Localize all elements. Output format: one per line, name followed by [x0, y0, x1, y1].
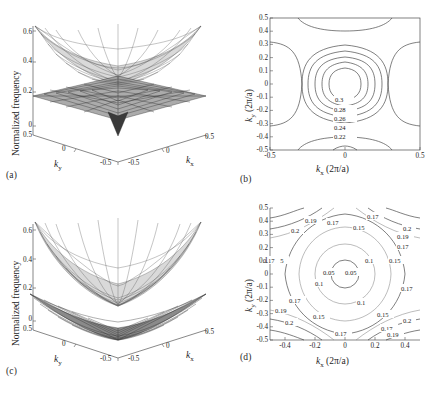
panel-b-clabel-026: 0.26 — [334, 115, 346, 122]
panel-d-ytick-0: 0.5 — [242, 204, 268, 212]
panel-b-ytick-5: 0 — [242, 80, 268, 88]
panel-d-ytick-9: -0.4 — [242, 323, 268, 331]
panel-a-ytick-2: -0.5 — [100, 159, 111, 167]
panel-a-xtick-2: 0.5 — [205, 133, 214, 141]
panel-d-clabel-017-right-upper: 0.17 — [397, 243, 409, 250]
panel-a-lower-band-surface — [33, 76, 206, 120]
panel-a-surface-plot: Normalized frequency 0.6 0.4 0.2 0 0.5 — [0, 4, 240, 194]
panel-d-y-ticks — [270, 208, 273, 340]
panel-a-ztick-3: 0 — [8, 121, 32, 129]
panel-b-y-ticks — [270, 18, 273, 150]
panel-b-xaxis-subscript: x — [320, 169, 324, 177]
panel-d-clabel-015-top: 0.15 — [353, 224, 365, 231]
panel-d-ytick-3: 0.2 — [242, 244, 268, 252]
panel-c-xaxis-subscript: x — [190, 355, 194, 363]
panel-d-xtick-0: -0.4 — [273, 342, 297, 350]
panel-a-xtick-0: -0.5 — [128, 159, 139, 167]
panel-d-xtick-2: 0 — [333, 342, 357, 350]
panel-c-canvas — [0, 194, 240, 393]
panel-b-contour-labels: 0.3 0.28 0.26 0.24 0.22 — [333, 95, 357, 140]
panel-b-ytick-6: -0.1 — [242, 93, 268, 101]
panel-c-xtick-1: 0 — [166, 342, 170, 350]
panel-d-ytick-6: -0.1 — [242, 283, 268, 291]
panel-d-clabel-02-top-left: 0.2 — [291, 227, 299, 234]
panel-a-ztick-1: 0.4 — [8, 57, 32, 65]
panel-a-xaxis-label: kx — [186, 155, 194, 168]
panel-c-ytick-1: 0 — [62, 340, 66, 348]
panel-d-xaxis-subscript: x — [320, 361, 324, 369]
panel-b-clabel-028: 0.28 — [334, 106, 346, 113]
panel-d-clabel-01-left: 0.1 — [315, 280, 323, 287]
panel-b-xtick-0: -0.5 — [258, 152, 282, 160]
panel-d-xaxis-label: kx (2π/a) — [316, 356, 349, 369]
panel-a-ztick-2: 0.2 — [8, 87, 32, 95]
panel-a-canvas — [0, 4, 240, 194]
panel-d-clabel-01-upper-right: 0.1 — [365, 257, 373, 264]
panel-d-ytick-5: 0 — [242, 270, 268, 278]
panel-d-clabel-015-right: 0.15 — [389, 257, 401, 264]
panel-b-clabel-03: 0.3 — [335, 96, 344, 103]
panel-c-yaxis-subscript: y — [58, 359, 62, 367]
panel-b-clabel-022: 0.22 — [334, 133, 346, 140]
panel-b-ytick-9: -0.4 — [242, 133, 268, 141]
panel-b-xtick-2: 0.5 — [408, 152, 432, 160]
panel-b-ytick-2: 0.3 — [242, 40, 268, 48]
panel-c-ytick-0: 0.5 — [4, 325, 32, 333]
panel-c-yaxis-label: ky — [54, 354, 62, 367]
panel-c-xtick-0: -0.5 — [128, 355, 139, 363]
panel-b-ytick-4: 0.1 — [242, 67, 268, 75]
panel-d-clabel-015-bottom-right: 0.15 — [377, 311, 389, 318]
panel-a-xtick-1: 0 — [166, 147, 170, 155]
panel-tag-d: (d) — [240, 352, 252, 362]
panel-d-xtick-4: 0.4 — [393, 342, 417, 350]
panel-b-ytick-3: 0.2 — [242, 54, 268, 62]
panel-a-zaxis-label: Normalized frequency — [11, 71, 21, 156]
panel-a-yaxis-subscript: y — [58, 164, 62, 172]
panel-d-clabel-019-top-right: 0.19 — [397, 233, 409, 240]
panel-b-clabel-024: 0.24 — [334, 124, 346, 131]
panel-b-xaxis-label: kx (2π/a) — [316, 164, 349, 177]
panel-b-contour-022 — [270, 42, 420, 126]
panel-tag-c: (c) — [6, 366, 17, 376]
panel-d-clabel-019-bottom-left: 0.19 — [275, 307, 287, 314]
panel-b-xtick-1: 0 — [333, 152, 357, 160]
panel-c-ztick-3: 0 — [8, 315, 32, 323]
panel-b-ytick-7: -0.2 — [242, 106, 268, 114]
panel-d-clabel-005-left: 0.05 — [323, 269, 335, 276]
panel-d-ytick-7: -0.2 — [242, 296, 268, 304]
panel-d-xtick-1: -0.2 — [303, 342, 327, 350]
panel-d-xaxis-unit: (2π/a) — [326, 356, 349, 366]
panel-c-upper-band-surface — [35, 218, 201, 306]
panel-b-yaxis-subscript: y — [249, 114, 257, 118]
panel-a-xaxis-subscript: x — [190, 160, 194, 168]
panel-c-ztick-0: 0.6 — [8, 227, 32, 235]
figure-root: Normalized frequency 0.6 0.4 0.2 0 0.5 — [0, 0, 435, 393]
panel-c-zaxis-label: Normalized frequency — [11, 261, 21, 346]
panel-d-clabel-02-bottom-right: 0.2 — [403, 317, 411, 324]
panel-a-yaxis-label: ky — [54, 159, 62, 172]
panel-d-clabel-02-top-right: 0.2 — [403, 225, 411, 232]
panel-c-ztick-2: 0.2 — [8, 284, 32, 292]
panel-c-ztick-1: 0.4 — [8, 256, 32, 264]
panel-b-x-ticks — [270, 147, 420, 150]
panel-d-ytick-1: 0.4 — [242, 217, 268, 225]
panel-b-xaxis-unit: (2π/a) — [326, 164, 349, 174]
panel-d-clabel-02-bottom-left: 0.2 — [285, 319, 293, 326]
panel-d-ytick-4: 0.1 — [242, 257, 268, 265]
panel-b-contour-plot: ky (2π/a) — [238, 4, 435, 194]
panel-d-clabel-017-top-left: 0.17 — [327, 219, 339, 226]
panel-d-clabel-015-bottom-left: 0.15 — [313, 313, 325, 320]
panel-d-ytick-8: -0.3 — [242, 310, 268, 318]
panel-d-yaxis-subscript: y — [249, 304, 257, 308]
panel-d-clabel-017-bottom: 0.17 — [335, 330, 347, 337]
panel-d-clabel-019-top-left: 0.19 — [305, 217, 317, 224]
panel-d-clabel-005-right: 0.05 — [345, 269, 357, 276]
panel-a-ytick-0: 0.5 — [4, 131, 32, 139]
panel-b-ytick-8: -0.3 — [242, 120, 268, 128]
panel-d-clabel-017-right-lower: 0.17 — [401, 285, 413, 292]
panel-d-ytick-10: -0.5 — [242, 336, 268, 344]
panel-d-clabel-01-lower: 0.1 — [357, 299, 365, 306]
panel-d-ytick-2: 0.3 — [242, 230, 268, 238]
panel-d-contour-plot: ky (2π/a) — [238, 194, 435, 393]
panel-c-ytick-2: -0.5 — [100, 355, 111, 363]
